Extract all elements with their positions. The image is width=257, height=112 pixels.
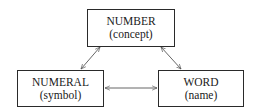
node-number: NUMBER (concept)	[87, 9, 175, 47]
node-word-title: WORD	[183, 76, 218, 89]
node-numeral-subtitle: (symbol)	[40, 89, 82, 102]
node-word: WORD (name)	[158, 70, 244, 107]
arrow-number-word	[161, 47, 181, 69]
node-numeral: NUMERAL (symbol)	[17, 70, 104, 107]
node-numeral-title: NUMERAL	[32, 76, 89, 89]
node-number-subtitle: (concept)	[109, 28, 152, 41]
arrow-number-numeral	[81, 47, 100, 69]
node-number-title: NUMBER	[106, 15, 155, 28]
node-word-subtitle: (name)	[185, 89, 218, 102]
